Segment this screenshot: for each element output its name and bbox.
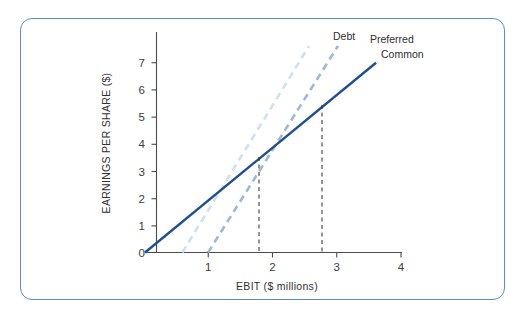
series-label-debt: Debt <box>333 30 355 42</box>
y-tick-label-4: 4 <box>139 138 146 150</box>
x-tick-label-3: 3 <box>334 261 340 273</box>
y-axis-tick-labels: 0 1 2 3 4 5 6 7 <box>139 57 146 259</box>
x-axis-title: EBIT ($ millions) <box>236 280 318 292</box>
series-line-common <box>145 63 376 253</box>
x-axis-tick-labels: 1 2 3 4 <box>205 261 405 273</box>
x-axis-ticks <box>208 253 401 258</box>
series-label-common: Common <box>381 48 424 60</box>
y-tick-label-1: 1 <box>139 220 145 232</box>
y-tick-label-3: 3 <box>139 166 145 178</box>
series-label-preferred: Preferred <box>370 33 414 45</box>
y-tick-label-6: 6 <box>139 84 145 96</box>
series-line-debt <box>182 46 309 253</box>
x-tick-label-4: 4 <box>398 261 405 273</box>
x-tick-label-1: 1 <box>205 261 211 273</box>
y-tick-label-2: 2 <box>139 193 145 205</box>
eps-ebit-chart: 0 1 2 3 4 5 6 7 1 2 3 4 EBIT ($ millions… <box>0 0 525 316</box>
x-tick-label-2: 2 <box>269 261 275 273</box>
y-axis-ticks <box>152 63 157 253</box>
y-axis-title: EARNINGS PER SHARE ($) <box>100 73 112 214</box>
y-tick-label-0: 0 <box>139 247 145 259</box>
y-tick-label-7: 7 <box>139 57 145 69</box>
series-line-preferred <box>208 46 338 253</box>
y-tick-label-5: 5 <box>139 111 145 123</box>
